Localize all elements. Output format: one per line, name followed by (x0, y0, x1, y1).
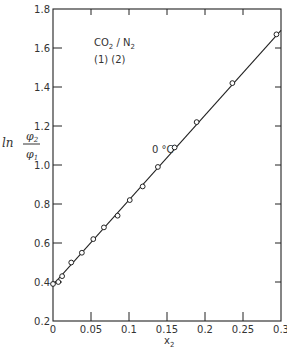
data-point (60, 274, 65, 279)
svg-text:ln: ln (2, 136, 14, 150)
x-tick-label: 0.2 (197, 324, 213, 335)
data-point (140, 184, 145, 189)
y-tick-label: 1.2 (34, 121, 50, 132)
data-point (51, 282, 56, 287)
x-tick-label: 0 (50, 324, 56, 335)
data-point (115, 213, 120, 218)
y-tick-label: 0.6 (34, 238, 50, 249)
y-tick-label: 1.4 (34, 82, 50, 93)
data-point (274, 32, 279, 37)
x-tick-label: 0.05 (80, 324, 102, 335)
data-point (230, 81, 235, 86)
x-tick-label: 0.3 (273, 324, 287, 335)
plot-frame (53, 9, 281, 321)
component-indices: (1) (2) (94, 54, 126, 65)
system-label: CO2 / N2 (94, 37, 135, 51)
temperature-label: 0 °C (152, 144, 174, 155)
data-point (194, 120, 199, 125)
y-tick-label: 0.8 (34, 199, 50, 210)
y-tick-label: 1.6 (34, 43, 50, 54)
y-tick-label: 0.2 (34, 316, 50, 327)
data-point (56, 280, 61, 285)
chart-canvas: 00.050.10.150.20.250.30.20.40.60.81.01.2… (0, 0, 287, 353)
x-tick-label: 0.15 (156, 324, 178, 335)
svg-text:φ2: φ2 (26, 130, 39, 144)
axis-ticks: 00.050.10.150.20.250.30.20.40.60.81.01.2… (34, 4, 287, 335)
x-tick-label: 0.25 (232, 324, 254, 335)
fit-line (53, 30, 281, 284)
x-axis-label: x2 (164, 335, 174, 349)
y-tick-label: 1.8 (34, 4, 50, 15)
data-point (155, 165, 160, 170)
x-tick-label: 0.1 (121, 324, 137, 335)
y-axis-label: ln φ2 φ1 (2, 130, 40, 162)
svg-text:φ1: φ1 (26, 148, 38, 162)
data-point (102, 225, 107, 230)
y-tick-label: 0.4 (34, 277, 50, 288)
data-point (69, 260, 74, 265)
data-points (51, 32, 279, 286)
data-point (91, 237, 96, 242)
data-point (127, 198, 132, 203)
data-point (79, 250, 84, 255)
plot-border (53, 9, 281, 321)
